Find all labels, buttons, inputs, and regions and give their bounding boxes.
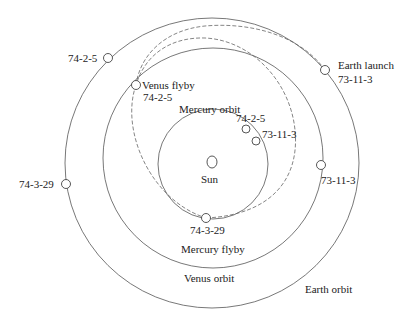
venus-flyby-marker <box>132 81 141 90</box>
earth-launch-label: Earth launch <box>338 59 394 71</box>
orbit-diagram: Sun Earth launch 73-11-3 Venus flyby 74-… <box>0 0 415 316</box>
venus-flyby-date: 74-2-5 <box>143 91 173 103</box>
earth-launch-date: 73-11-3 <box>338 73 373 85</box>
venus-flyby-label: Venus flyby <box>142 79 195 91</box>
mercury-flyby-date: 74-3-29 <box>190 224 225 236</box>
mercury-orbit-label: Mercury orbit <box>179 103 240 115</box>
mercury-position-74-2-5-marker <box>242 125 250 133</box>
earth-position-74-3-29-marker <box>62 180 71 189</box>
earth-position-74-3-29-label: 74-3-29 <box>19 178 54 190</box>
mercury-position-74-2-5-label: 74-2-5 <box>236 112 266 124</box>
mercury-flyby-label: Mercury flyby <box>181 243 245 255</box>
sun-label: Sun <box>201 173 219 185</box>
venus-orbit-label: Venus orbit <box>184 272 234 284</box>
mercury-position-73-11-3-marker <box>252 137 260 145</box>
earth-position-74-2-5-marker <box>104 54 113 63</box>
mercury-flyby-marker <box>202 214 211 223</box>
venus-position-73-11-3-label: 73-11-3 <box>321 174 356 186</box>
earth-orbit-label: Earth orbit <box>305 283 352 295</box>
venus-position-73-11-3-marker <box>317 161 326 170</box>
mercury-position-73-11-3-label: 73-11-3 <box>262 128 297 140</box>
transfer-arc-earth-to-venus <box>136 25 325 85</box>
earth-launch-marker <box>321 66 330 75</box>
earth-position-74-2-5-label: 74-2-5 <box>68 52 98 64</box>
sun-icon <box>207 156 217 168</box>
